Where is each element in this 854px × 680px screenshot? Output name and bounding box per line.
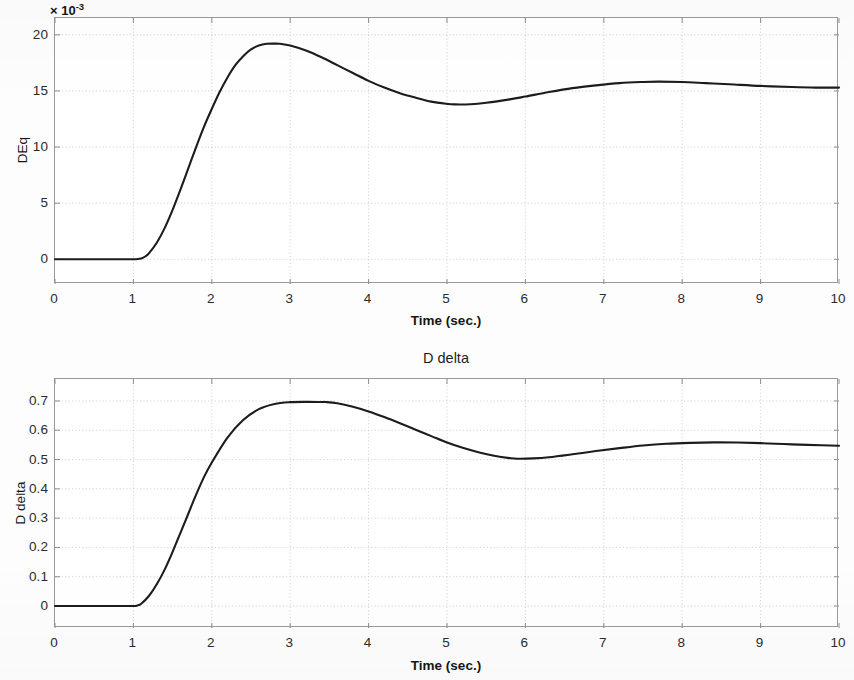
x-tick-label: 1	[129, 635, 137, 650]
x-tick-label: 10	[830, 291, 845, 306]
y-tick-label: 0.1	[0, 568, 48, 583]
plot-svg-ddelta	[55, 379, 839, 628]
figure-canvas: × 10-3 05101520 012345678910 DEq Time (s…	[0, 0, 854, 680]
x-tick-label: 8	[677, 635, 685, 650]
panel-ddelta: D delta 00.10.20.30.40.50.60.7 012345678…	[0, 340, 854, 680]
y-tick-label: 0	[0, 598, 48, 613]
x-tick-label: 6	[521, 635, 529, 650]
x-tick-label: 7	[599, 291, 607, 306]
y-tick-label: 15	[0, 82, 48, 97]
x-tick-label: 10	[830, 635, 845, 650]
y-tick-label: 0.6	[0, 422, 48, 437]
x-tick-label: 2	[207, 635, 215, 650]
x-tick-label: 2	[207, 291, 215, 306]
gridlines-deq	[55, 18, 839, 284]
data-curve-ddelta	[55, 402, 839, 606]
x-tick-label: 9	[756, 635, 764, 650]
y-axis-label-ddelta: D delta	[13, 482, 28, 525]
gridlines-ddelta	[55, 379, 839, 628]
x-tick-label: 6	[521, 291, 529, 306]
x-tick-label: 0	[50, 635, 58, 650]
y-tick-label: 0.5	[0, 451, 48, 466]
y-tick-label: 0	[0, 251, 48, 266]
panel-deq: × 10-3 05101520 012345678910 DEq Time (s…	[0, 0, 854, 340]
x-tick-label: 9	[756, 291, 764, 306]
x-tick-label: 1	[129, 291, 137, 306]
y-tick-label: 0.2	[0, 539, 48, 554]
x-tick-label: 4	[364, 635, 372, 650]
x-tick-label: 4	[364, 291, 372, 306]
x-tick-label: 3	[285, 291, 293, 306]
x-tick-label: 3	[285, 635, 293, 650]
x-tick-label: 8	[677, 291, 685, 306]
x-axis-label-ddelta: Time (sec.)	[411, 658, 481, 673]
x-tick-label: 5	[442, 635, 450, 650]
plot-area-deq	[54, 17, 838, 283]
x-tick-label: 7	[599, 635, 607, 650]
y-tick-label: 5	[0, 195, 48, 210]
x-tick-label: 0	[50, 291, 58, 306]
y-tick-label: 20	[0, 26, 48, 41]
plot-area-ddelta	[54, 378, 838, 627]
y-tick-label: 0.7	[0, 392, 48, 407]
x-tick-label: 5	[442, 291, 450, 306]
y-axis-label-deq: DEq	[15, 137, 30, 163]
x-axis-label-deq: Time (sec.)	[411, 313, 481, 328]
plot-svg-deq	[55, 18, 839, 284]
y-exponent-label-deq: × 10-3	[50, 1, 84, 18]
panel-title-ddelta: D delta	[423, 350, 469, 366]
